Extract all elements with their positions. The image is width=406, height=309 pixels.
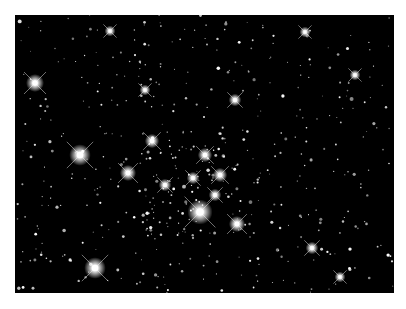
star-field-image bbox=[15, 15, 394, 293]
star-field-canvas bbox=[15, 15, 394, 293]
bright-stars bbox=[24, 24, 362, 283]
